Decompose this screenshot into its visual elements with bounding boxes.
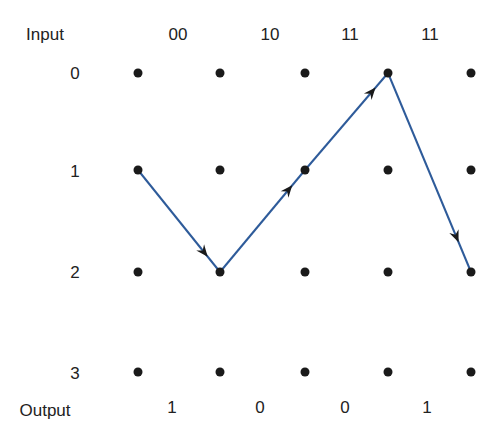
- state-node: [301, 368, 310, 377]
- state-node: [216, 69, 225, 78]
- trellis-graph: [0, 0, 503, 439]
- state-node: [134, 166, 143, 175]
- state-node: [467, 268, 476, 277]
- state-node: [301, 166, 310, 175]
- state-node: [467, 368, 476, 377]
- state-node: [301, 268, 310, 277]
- state-node: [301, 69, 310, 78]
- state-node: [467, 69, 476, 78]
- state-node: [134, 69, 143, 78]
- state-node: [384, 166, 393, 175]
- state-node: [134, 368, 143, 377]
- state-node: [467, 166, 476, 175]
- state-node: [384, 69, 393, 78]
- state-node: [216, 268, 225, 277]
- state-node: [384, 268, 393, 277]
- state-node: [134, 268, 143, 277]
- state-node: [216, 166, 225, 175]
- state-node: [384, 368, 393, 377]
- state-node: [216, 368, 225, 377]
- arrowhead-icon: [449, 229, 463, 244]
